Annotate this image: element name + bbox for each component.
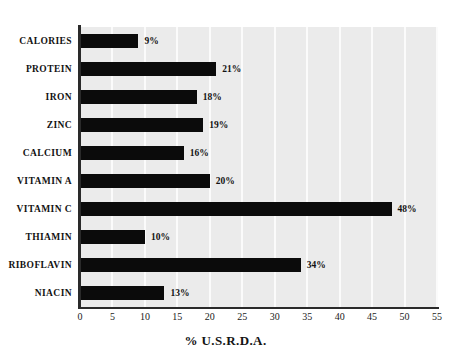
bar (80, 146, 184, 160)
bar-value-label: 48% (398, 202, 417, 216)
bar-value-label: 20% (216, 174, 235, 188)
category-label: CALORIES (19, 34, 72, 48)
bar (80, 230, 145, 244)
gridline (436, 27, 438, 307)
x-tick-label: 20 (205, 311, 215, 322)
bar (80, 34, 138, 48)
gridline (404, 27, 406, 307)
x-tick-label: 45 (367, 311, 377, 322)
bar-chart: CALORIESPROTEINIRONZINCCALCIUMVITAMIN AV… (0, 0, 451, 360)
bar-value-label: 19% (209, 118, 228, 132)
x-tick-label: 35 (302, 311, 312, 322)
bar (80, 174, 210, 188)
x-axis-line (78, 307, 439, 309)
plot-area: 9%21%18%19%16%20%48%10%34%13% (80, 27, 437, 307)
bar-value-label: 9% (144, 34, 158, 48)
bar (80, 118, 203, 132)
category-label: VITAMIN C (17, 202, 72, 216)
x-tick-label: 40 (335, 311, 345, 322)
gridline (339, 27, 341, 307)
cut-off-caption-ghost (0, 0, 451, 6)
x-tick-label: 55 (432, 311, 442, 322)
x-tick-label: 0 (78, 311, 83, 322)
x-axis-title: % U.S.R.D.A. (0, 333, 451, 349)
x-tick-label: 50 (400, 311, 410, 322)
bar (80, 90, 197, 104)
category-label: RIBOFLAVIN (9, 258, 72, 272)
category-label: CALCIUM (23, 146, 72, 160)
category-label: PROTEIN (26, 62, 72, 76)
bar-value-label: 34% (307, 258, 326, 272)
bar-value-label: 10% (151, 230, 170, 244)
y-axis-line (78, 25, 81, 309)
bar (80, 258, 301, 272)
x-axis-tick-labels: 0510152025303540455055 (0, 311, 451, 327)
category-label: ZINC (47, 118, 72, 132)
bar-value-label: 21% (222, 62, 241, 76)
gridline (371, 27, 373, 307)
bar (80, 202, 392, 216)
x-tick-label: 30 (270, 311, 280, 322)
bar-value-label: 13% (170, 286, 189, 300)
x-tick-label: 15 (172, 311, 182, 322)
category-label: NIACIN (35, 286, 72, 300)
category-label: IRON (46, 90, 72, 104)
bar-value-label: 16% (190, 146, 209, 160)
bar (80, 286, 164, 300)
category-label: THIAMIN (25, 230, 72, 244)
category-label: VITAMIN A (17, 174, 72, 188)
bar (80, 62, 216, 76)
category-axis-labels: CALORIESPROTEINIRONZINCCALCIUMVITAMIN AV… (0, 27, 76, 307)
x-tick-label: 10 (140, 311, 150, 322)
x-tick-label: 25 (237, 311, 247, 322)
bar-value-label: 18% (203, 90, 222, 104)
x-tick-label: 5 (110, 311, 115, 322)
